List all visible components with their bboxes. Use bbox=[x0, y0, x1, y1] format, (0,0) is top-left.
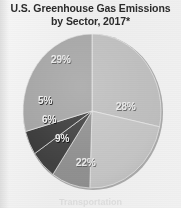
pie-label-5: 5% bbox=[38, 95, 52, 106]
pie-label-29: 29% bbox=[51, 54, 71, 65]
scan-edge-shadow bbox=[0, 0, 9, 208]
legend-cutoff: Transportation bbox=[0, 198, 181, 208]
chart-title-line-1: U.S. Greenhouse Gas Emissions bbox=[0, 2, 181, 15]
pie-chart: 28% 22% 9% 6% 5% 29% bbox=[21, 31, 163, 191]
chart-title: U.S. Greenhouse Gas Emissions by Sector,… bbox=[0, 2, 181, 27]
chart-figure: U.S. Greenhouse Gas Emissions by Sector,… bbox=[0, 0, 181, 208]
legend-partial-label: Transportation bbox=[0, 198, 181, 207]
pie-label-22: 22% bbox=[76, 157, 96, 168]
pie-label-28: 28% bbox=[116, 101, 136, 112]
chart-title-line-2: by Sector, 2017* bbox=[0, 15, 181, 28]
pie-label-6: 6% bbox=[42, 114, 56, 125]
pie-label-9: 9% bbox=[55, 133, 69, 144]
